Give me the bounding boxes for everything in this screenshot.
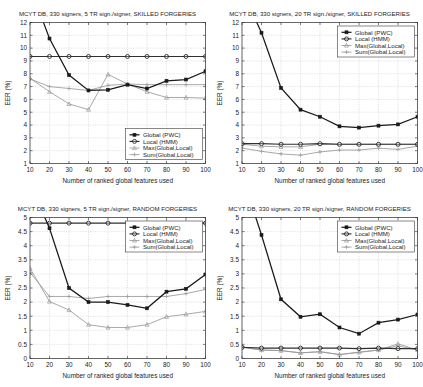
y-tick-label: 0 [235, 355, 239, 362]
y-tick-label: 4.5 [230, 228, 239, 235]
marker-global [48, 37, 51, 40]
x-tick-label: 40 [297, 166, 305, 173]
legend-label-sum: Sum(Global,Local) [143, 243, 193, 250]
figure-canvas: MCYT DB, 330 signers, 5 TR sign./signer,… [0, 0, 423, 387]
chart-title: MCYT DB, 330 signers, 20 TR sign./signer… [228, 205, 411, 212]
x-tick-label: 50 [104, 166, 112, 173]
x-tick-label: 20 [46, 361, 54, 368]
y-tick-label: 2 [23, 147, 27, 154]
x-tick-label: 40 [85, 361, 93, 368]
y-tick-label: 3 [235, 134, 239, 141]
x-tick-label: 50 [316, 166, 324, 173]
chart-panel-bottom-right: MCYT DB, 330 signers, 20 TR sign./signer… [212, 195, 423, 387]
y-tick-label: 5 [235, 214, 239, 221]
y-tick-label: 3 [23, 134, 27, 141]
x-tick-label: 60 [336, 166, 344, 173]
x-tick-label: 20 [258, 166, 266, 173]
x-tick-label: 60 [124, 166, 132, 173]
x-tick-label: 50 [316, 361, 324, 368]
y-axis-label: EER (%) [216, 81, 224, 106]
x-tick-label: 100 [200, 361, 211, 368]
marker-global [377, 321, 380, 324]
marker-global [146, 307, 149, 310]
x-tick-label: 30 [65, 361, 73, 368]
x-axis-label: Number of ranked global features used [63, 372, 174, 380]
y-tick-label: 3 [23, 270, 27, 277]
x-tick-label: 20 [46, 166, 54, 173]
marker-global [146, 87, 149, 90]
marker-global [68, 287, 71, 290]
marker-global [345, 226, 348, 229]
chart-title: MCYT DB, 330 signers, 5 TR sign./signer,… [18, 205, 197, 212]
marker-global [87, 89, 90, 92]
y-tick-label: 1.5 [230, 313, 239, 320]
marker-global [397, 318, 400, 321]
y-tick-label: 7 [23, 83, 27, 90]
legend-label-sum: Sum(Global,Local) [143, 151, 193, 158]
y-tick-label: 4 [235, 242, 239, 249]
y-tick-label: 8 [235, 70, 239, 77]
x-tick-label: 90 [394, 361, 402, 368]
marker-global [397, 123, 400, 126]
y-tick-label: 10 [232, 44, 240, 51]
chart-title: MCYT DB, 330 signers, 5 TR sign./signer,… [19, 10, 196, 17]
marker-global [358, 332, 361, 335]
x-tick-label: 70 [355, 361, 363, 368]
x-tick-label: 80 [163, 361, 171, 368]
marker-global [133, 226, 136, 229]
y-tick-label: 10 [20, 44, 28, 51]
x-tick-label: 50 [104, 361, 112, 368]
y-tick-label: 2.5 [18, 284, 27, 291]
y-tick-label: 11 [232, 32, 239, 39]
y-tick-label: 3.5 [230, 256, 239, 263]
marker-global [280, 86, 283, 89]
x-tick-label: 90 [182, 166, 190, 173]
x-axis-label: Number of ranked global features used [275, 177, 386, 185]
x-tick-label: 80 [375, 361, 383, 368]
x-tick-label: 60 [336, 361, 344, 368]
legend-label-sum: Sum(Global,Local) [355, 243, 405, 250]
legend: Global (PWC)Local (HMM)Max(Global,Local)… [338, 26, 415, 57]
x-tick-label: 10 [26, 166, 34, 173]
y-tick-label: 1.5 [18, 313, 27, 320]
y-tick-label: 9 [235, 57, 239, 64]
y-tick-label: 12 [232, 19, 240, 26]
y-tick-label: 1 [235, 160, 239, 167]
y-tick-label: 9 [23, 57, 27, 64]
marker-global [260, 233, 263, 236]
y-tick-label: 2 [235, 147, 239, 154]
x-tick-label: 10 [26, 361, 34, 368]
x-tick-label: 90 [182, 361, 190, 368]
y-axis-label: EER (%) [4, 276, 12, 301]
legend: Global (PWC)Local (HMM)Max(Global,Local)… [126, 221, 203, 252]
x-tick-label: 80 [375, 166, 383, 173]
marker-global [299, 315, 302, 318]
y-tick-label: 1 [23, 160, 27, 167]
y-tick-label: 12 [20, 19, 28, 26]
marker-global [377, 124, 380, 127]
x-tick-label: 90 [394, 166, 402, 173]
y-tick-label: 0.5 [230, 341, 239, 348]
y-tick-label: 6 [235, 96, 239, 103]
x-tick-label: 80 [163, 166, 171, 173]
marker-global [338, 125, 341, 128]
x-tick-label: 60 [124, 361, 132, 368]
marker-global [358, 126, 361, 129]
x-tick-label: 10 [238, 166, 246, 173]
y-tick-label: 2 [235, 298, 239, 305]
x-tick-label: 100 [200, 166, 211, 173]
marker-global [126, 303, 129, 306]
y-tick-label: 4 [23, 242, 27, 249]
x-tick-label: 20 [258, 361, 266, 368]
x-tick-label: 30 [277, 166, 285, 173]
y-axis-label: EER (%) [4, 81, 12, 106]
y-tick-label: 5 [23, 214, 27, 221]
marker-global [299, 108, 302, 111]
marker-global [345, 31, 348, 34]
marker-global [185, 78, 188, 81]
x-tick-label: 40 [85, 166, 93, 173]
x-tick-label: 30 [277, 361, 285, 368]
y-tick-label: 6 [23, 96, 27, 103]
y-tick-label: 4.5 [18, 228, 27, 235]
y-tick-label: 0 [23, 355, 27, 362]
